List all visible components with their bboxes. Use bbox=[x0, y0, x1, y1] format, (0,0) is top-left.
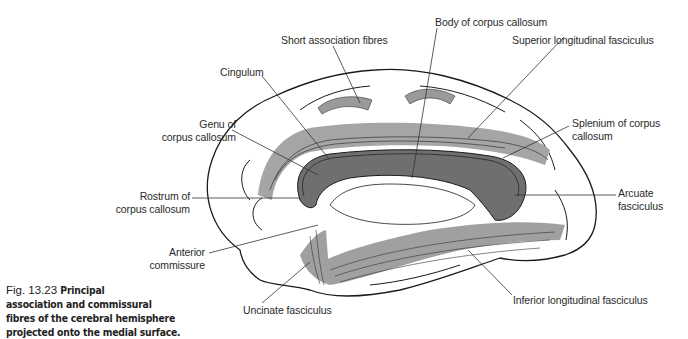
figure-caption: Fig. 13.23 Principal association and com… bbox=[6, 283, 180, 339]
caption-title-line1: Principal bbox=[60, 284, 104, 296]
label-anterior-commissure: Anterior commissure bbox=[105, 246, 205, 271]
label-cingulum: Cingulum bbox=[220, 66, 264, 79]
label-anterior-commissure-line2: commissure bbox=[105, 259, 205, 272]
caption-title-line3: fibres of the cerebral hemisphere bbox=[6, 312, 175, 324]
label-rostrum: Rostrum of corpus callosum bbox=[90, 190, 190, 215]
label-superior-longitudinal-fasciculus: Superior longitudinal fasciculus bbox=[512, 34, 654, 47]
label-rostrum-line2: corpus callosum bbox=[90, 203, 190, 216]
label-arcuate-line2: fasciculus bbox=[618, 200, 663, 213]
caption-number: Fig. 13.23 bbox=[6, 284, 57, 296]
label-genu-line2: corpus callosum bbox=[136, 131, 236, 144]
label-body-corpus-callosum: Body of corpus callosum bbox=[435, 16, 547, 29]
label-genu-line1: Genu of bbox=[136, 118, 236, 131]
label-splenium-line1: Splenium of corpus bbox=[572, 117, 660, 130]
caption-title-line4: projected onto the medial surface. bbox=[6, 326, 180, 338]
label-inferior-longitudinal-fasciculus: Inferior longitudinal fasciculus bbox=[513, 294, 648, 307]
label-arcuate: Arcuate fasciculus bbox=[618, 187, 663, 212]
label-short-association-fibres: Short association fibres bbox=[281, 34, 388, 47]
label-rostrum-line1: Rostrum of bbox=[90, 190, 190, 203]
label-splenium-line2: callosum bbox=[572, 130, 660, 143]
caption-title-line2: association and commissural bbox=[6, 298, 152, 310]
label-splenium: Splenium of corpus callosum bbox=[572, 117, 660, 142]
label-genu: Genu of corpus callosum bbox=[136, 118, 236, 143]
label-anterior-commissure-line1: Anterior bbox=[105, 246, 205, 259]
label-uncinate-fasciculus: Uncinate fasciculus bbox=[243, 304, 332, 317]
label-arcuate-line1: Arcuate bbox=[618, 187, 663, 200]
